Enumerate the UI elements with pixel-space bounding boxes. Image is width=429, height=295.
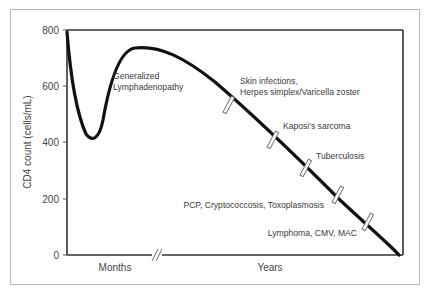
annotation-kaposi: Kaposi's sarcoma — [283, 121, 351, 131]
annotation-lymphoma: Lymphoma, CMV, MAC — [268, 228, 357, 238]
y-tick-600: 600 — [42, 81, 59, 92]
axis-break-icon — [152, 249, 162, 261]
y-ticks: 800 600 400 200 0 — [42, 25, 67, 261]
y-tick-800: 800 — [42, 25, 59, 36]
annotation-lymphadenopathy-2: Lymphadenopathy — [113, 82, 184, 92]
annotation-tuberculosis: Tuberculosis — [316, 151, 364, 161]
annotation-skin-1: Skin infections, — [240, 76, 298, 86]
annotation-pcp: PCP, Cryptococcosis, Toxoplasmosis — [183, 200, 324, 210]
y-tick-0: 0 — [53, 250, 59, 261]
y-tick-400: 400 — [42, 137, 59, 148]
cd4-chart: 800 600 400 200 0 CD4 count (cells/mL) M… — [0, 0, 429, 295]
cd4-curve — [67, 32, 399, 255]
x-label-months: Months — [99, 262, 132, 273]
annotation-lymphadenopathy-1: Generalized — [113, 71, 160, 81]
x-label-years: Years — [257, 262, 282, 273]
y-axis-title: CD4 count (cells/mL) — [22, 95, 33, 188]
y-tick-200: 200 — [42, 194, 59, 205]
annotation-skin-2: Herpes simplex/Varicella zoster — [240, 87, 360, 97]
